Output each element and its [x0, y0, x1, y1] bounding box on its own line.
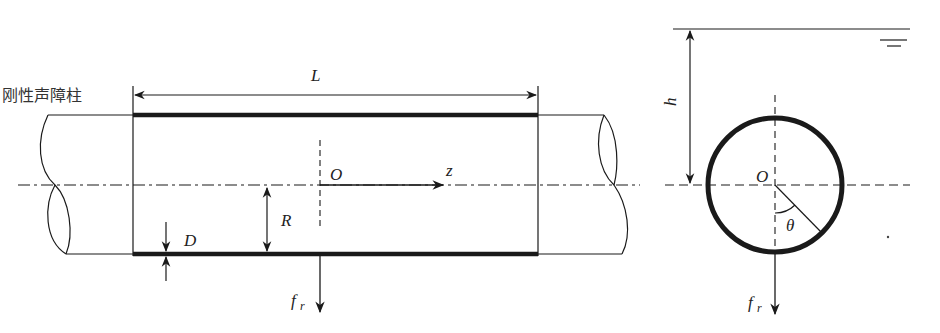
force-subscript-left: r — [300, 299, 305, 313]
force-subscript-right: r — [757, 301, 762, 315]
radius-label: R — [280, 211, 292, 230]
force-label-left: f — [291, 291, 298, 310]
diagram-canvas: 刚性声障柱 L O z R D f r h O θ f — [0, 0, 940, 333]
cross-section-view — [665, 29, 910, 314]
theta-radius-line — [775, 185, 822, 233]
diagram-svg: 刚性声障柱 L O z R D f r h O θ f — [0, 0, 940, 333]
barrier-caption: 刚性声障柱 — [2, 86, 82, 105]
length-label: L — [310, 66, 320, 85]
stray-mark — [887, 236, 889, 238]
right-break-curve-inner — [599, 115, 614, 185]
depth-label: h — [661, 98, 680, 107]
theta-label: θ — [786, 216, 794, 235]
water-surface-icon — [880, 40, 907, 46]
left-view-labels: 刚性声障柱 L O z R D f r — [2, 66, 453, 313]
left-break-curve-inner — [48, 185, 66, 254]
theta-arc — [775, 205, 795, 213]
longitudinal-view — [18, 86, 640, 312]
thickness-label: D — [183, 231, 197, 250]
force-label-right: f — [748, 293, 755, 312]
z-axis-label: z — [445, 161, 453, 180]
origin-label-left: O — [330, 165, 342, 184]
origin-label-right: O — [756, 167, 768, 186]
